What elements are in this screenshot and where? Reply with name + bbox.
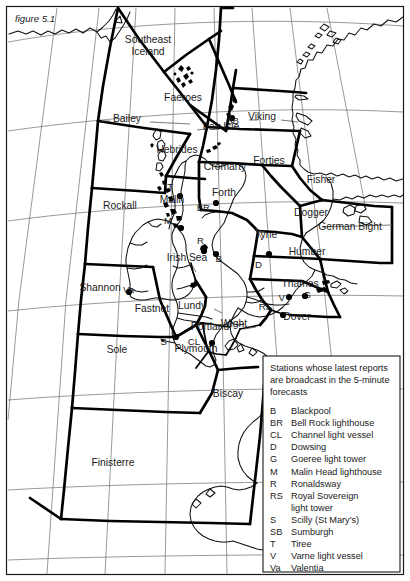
station-code-m: M	[164, 215, 172, 226]
station-code-t: T	[167, 181, 173, 192]
station-dot-m	[178, 225, 184, 231]
legend-value-va: Valentia	[291, 563, 324, 573]
sea-area-label: Dogger	[294, 207, 328, 218]
legend-value-b: Blackpool	[291, 406, 331, 416]
sea-area-label: Sole	[107, 344, 128, 355]
sea-area-label: German Bight	[318, 221, 382, 232]
sea-area-label: Forth	[212, 187, 236, 198]
legend-key-rs: RS	[270, 491, 283, 501]
legend-key-d: D	[270, 442, 277, 452]
sea-area-label: Faeroes	[164, 92, 202, 103]
legend-key-m: M	[270, 467, 278, 477]
legend-value-v: Varne light vessel	[291, 551, 363, 561]
legend-key-cl: CL	[270, 430, 282, 440]
sea-area-label: Rockall	[103, 200, 137, 211]
legend-key-g: G	[270, 454, 277, 464]
coastline-faeroes	[174, 65, 194, 88]
figure-caption: figure 5.1	[15, 13, 55, 24]
station-code-g: G	[304, 289, 311, 300]
sea-area-label: Thames	[281, 278, 318, 289]
sea-area-label: Irish Sea	[167, 252, 208, 263]
legend-heading-line: are broadcast in the 5-minute	[270, 375, 390, 385]
station-dot-d	[266, 251, 272, 257]
sea-area-label: Lundy	[178, 300, 207, 311]
legend-value-r: Ronaldsway	[291, 479, 341, 489]
station-dot-s	[173, 334, 179, 340]
sea-area-label: Tyne	[255, 229, 278, 240]
legend-value-s: Scilly (St Mary's)	[291, 515, 359, 525]
legend-key-v: V	[270, 551, 277, 561]
legend-heading-line: forecasts	[270, 387, 308, 397]
sea-area-label: Forties	[253, 155, 284, 166]
sea-area-label: Finisterre	[92, 457, 135, 468]
legend-value-sb: Sumburgh	[291, 527, 333, 537]
legend-value-cont-rs: light tower	[291, 503, 333, 513]
station-code-sb: SB	[226, 115, 239, 126]
legend-key-br: BR	[270, 418, 283, 428]
sea-area-label: SoutheastIceland	[125, 34, 172, 57]
station-code-r: R	[197, 235, 204, 246]
sea-area-label: Bailey	[113, 113, 142, 124]
legend-key-s: S	[270, 515, 276, 525]
station-code-b: B	[216, 253, 222, 264]
station-code-va: Va	[123, 284, 135, 295]
station-code-rs: RS	[259, 301, 272, 312]
legend-value-cl: Channel light vessel	[291, 430, 373, 440]
legend-value-t: Tiree	[291, 539, 312, 549]
sea-area-label: Hebrides	[156, 144, 197, 155]
sea-area-label: Malin	[160, 194, 185, 205]
station-dot-v	[286, 294, 292, 300]
legend-value-g: Goeree light tower	[291, 454, 366, 464]
station-code-br: BR	[197, 202, 210, 213]
legend-key-t: T	[270, 539, 276, 549]
legend-value-br: Bell Rock lighthouse	[291, 418, 374, 428]
legend-key-va: Va	[270, 563, 281, 573]
sea-area-label: Fastnet	[135, 303, 169, 314]
legend-heading-line: Stations whose latest reports	[270, 363, 388, 373]
sea-area-label: Fisher	[307, 174, 336, 185]
station-code-v: V	[279, 292, 286, 303]
sea-area-label: Cromarty	[204, 161, 247, 172]
legend-value-m: Malin Head lighthouse	[291, 467, 382, 477]
sea-area-label: Dover	[283, 311, 311, 322]
sea-area-label: Shannon	[79, 282, 121, 293]
sea-area-label: Biscay	[213, 388, 244, 399]
legend-key-r: R	[270, 479, 277, 489]
station-code-cl: CL	[188, 336, 201, 347]
coastline-norway-islands	[295, 24, 341, 138]
station-code-d: D	[255, 259, 262, 270]
shipping-forecast-map: SoutheastIcelandFaeroesBaileyVikingFair …	[0, 0, 410, 581]
legend-value-rs: Royal Sovereign	[291, 491, 358, 501]
legend: Stations whose latest reportsare broadca…	[263, 356, 400, 573]
sea-area-label: Portland	[191, 321, 230, 332]
sea-area-label: Humber	[289, 246, 326, 257]
legend-value-d: Dowsing	[291, 442, 326, 452]
station-code-s: S	[161, 336, 167, 347]
legend-key-b: B	[270, 406, 276, 416]
legend-key-sb: SB	[270, 527, 282, 537]
station-dot-br	[213, 200, 219, 206]
sea-area-label: Viking	[248, 111, 276, 122]
figure-page: SoutheastIcelandFaeroesBaileyVikingFair …	[0, 0, 410, 581]
